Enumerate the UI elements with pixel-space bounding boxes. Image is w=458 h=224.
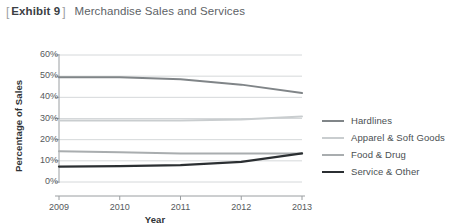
exhibit-label: Exhibit 9 [11,6,60,18]
legend-label: Food & Drug [351,149,406,160]
bracket-open-icon: [ [6,6,9,18]
x-tick-label: 2010 [100,203,140,212]
chart-legend: HardlinesApparel & Soft GoodsFood & Drug… [322,112,458,180]
x-tick-label: 2013 [282,203,322,212]
legend-label: Service & Other [351,166,420,177]
x-tick-label: 2012 [221,203,261,212]
exhibit-header: [ Exhibit 9 ] Merchandise Sales and Serv… [6,3,452,21]
x-axis-tick-labels: 20092010201120122013 [0,24,310,224]
x-tick-label: 2011 [161,203,201,212]
legend-swatch-icon [322,120,344,122]
legend-swatch-icon [322,171,344,173]
legend-item[interactable]: Service & Other [322,163,458,180]
x-axis-title: Year [0,214,310,224]
legend-swatch-icon [322,154,344,156]
y-axis-title: Percentage of Sales [13,80,24,172]
legend-label: Apparel & Soft Goods [351,132,445,143]
exhibit-title: Merchandise Sales and Services [75,6,245,18]
x-tick-label: 2009 [39,203,79,212]
legend-item[interactable]: Hardlines [322,112,458,129]
bracket-close-icon: ] [62,6,65,18]
legend-item[interactable]: Food & Drug [322,146,458,163]
legend-item[interactable]: Apparel & Soft Goods [322,129,458,146]
legend-label: Hardlines [351,115,392,126]
legend-swatch-icon [322,137,344,139]
chart-region: 0%10%20%30%40%50%60% 2009201020112012201… [0,24,458,224]
